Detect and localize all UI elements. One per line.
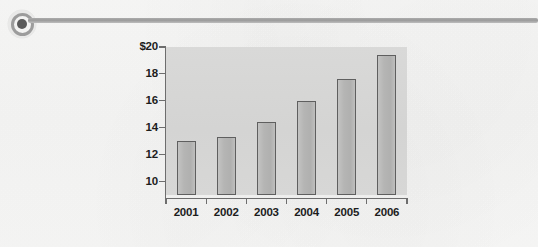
y-axis-tick bbox=[159, 73, 165, 74]
bullet-center-dot bbox=[17, 19, 27, 29]
y-axis-tick-label: 14 bbox=[124, 122, 158, 133]
y-axis-tick bbox=[159, 181, 165, 182]
y-axis-tick bbox=[159, 127, 165, 128]
plot-area bbox=[166, 47, 407, 195]
x-axis-tick bbox=[406, 198, 407, 204]
bullet-circle-icon bbox=[8, 10, 36, 38]
x-axis-tick-label: 2005 bbox=[327, 206, 367, 219]
x-axis-tick bbox=[206, 198, 207, 204]
x-axis-tick-label: 2006 bbox=[367, 206, 407, 219]
bar-2005 bbox=[337, 79, 356, 195]
x-axis-tick bbox=[326, 198, 327, 204]
bar-2006 bbox=[377, 55, 396, 195]
bar-2001 bbox=[177, 141, 196, 195]
y-axis-tick-label: 10 bbox=[124, 176, 158, 187]
y-axis-tick bbox=[159, 100, 165, 101]
bar-2002 bbox=[217, 137, 236, 195]
page-root: 1012141618$20 200120022003200420052006 bbox=[0, 0, 538, 247]
y-axis-tick bbox=[159, 46, 165, 47]
x-axis-tick bbox=[246, 198, 247, 204]
x-axis-tick bbox=[366, 198, 367, 204]
x-axis-tick-label: 2004 bbox=[287, 206, 327, 219]
bar-2004 bbox=[297, 101, 316, 195]
y-axis-line bbox=[165, 46, 166, 198]
y-axis-tick-label: 16 bbox=[124, 95, 158, 106]
x-axis-tick-label: 2002 bbox=[206, 206, 246, 219]
y-axis-tick-label: 12 bbox=[124, 149, 158, 160]
y-axis-tick bbox=[159, 154, 165, 155]
bar-2003 bbox=[257, 122, 276, 195]
top-divider bbox=[0, 10, 538, 40]
y-axis-tick-label: 18 bbox=[124, 68, 158, 79]
horizontal-rule bbox=[28, 18, 538, 23]
x-axis-tick-label: 2003 bbox=[246, 206, 286, 219]
x-axis-tick bbox=[165, 198, 166, 204]
bar-chart: 1012141618$20 200120022003200420052006 bbox=[124, 40, 424, 225]
y-axis-tick-label: $20 bbox=[124, 41, 158, 52]
x-axis-tick bbox=[286, 198, 287, 204]
x-axis-tick-label: 2001 bbox=[166, 206, 206, 219]
